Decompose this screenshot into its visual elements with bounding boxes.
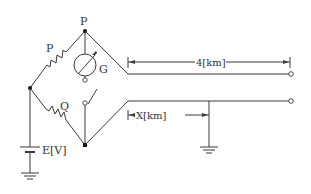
fault-ground (200, 101, 218, 153)
label-line-length: 4[km] (196, 57, 226, 68)
label-node-p: P (80, 15, 88, 28)
lower-terminal-icon (289, 99, 294, 104)
label-galvanometer: G (99, 63, 108, 76)
resistor-p (30, 31, 85, 88)
label-resistor-q: Q (60, 100, 69, 113)
label-resistor-p: P (46, 42, 54, 55)
label-battery: E[V] (42, 144, 67, 157)
galvanometer-terminal-icon (83, 78, 87, 82)
switch (83, 89, 97, 145)
battery (20, 88, 40, 179)
switch-terminal-icon (83, 101, 87, 105)
upper-terminal-icon (289, 72, 294, 77)
resistor-q (30, 88, 85, 145)
upper-conductor (85, 31, 293, 76)
label-fault-distance: X[km] (136, 110, 167, 121)
circuit-diagram: P P G Q E[V] 4[km] X[km] (0, 0, 311, 194)
lower-conductor (85, 99, 293, 145)
